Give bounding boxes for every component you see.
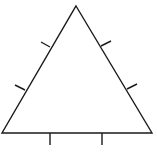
tick-mark-left-side: [41, 42, 50, 47]
tick-mark-left-side: [15, 85, 25, 90]
tick-mark-right-side: [127, 84, 137, 89]
triangle-diagram: [0, 0, 157, 161]
congruence-tick-marks: [15, 41, 137, 145]
equilateral-triangle: [2, 6, 152, 133]
tick-mark-right-side: [101, 41, 111, 46]
